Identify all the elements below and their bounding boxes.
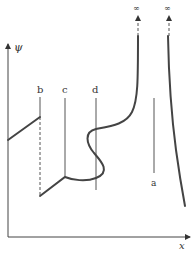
infinity-markers: ∞ ∞ (133, 4, 171, 36)
label-d: d (92, 84, 99, 95)
label-b: b (37, 84, 43, 95)
curve-left-segment (8, 117, 40, 140)
label-a: a (151, 178, 157, 188)
reference-lines: b c d a (37, 84, 157, 196)
potential-diagram: ψ x b c d a ∞ ∞ (0, 0, 194, 253)
curve-s-segment (40, 36, 138, 196)
x-axis-label: x (179, 240, 185, 251)
label-c: c (62, 84, 68, 95)
infinity-label-right: ∞ (164, 4, 171, 13)
infinity-label-left: ∞ (133, 4, 140, 13)
curve-right-segment (168, 36, 185, 206)
y-axis-label: ψ (14, 41, 23, 54)
axes: ψ x (8, 41, 190, 251)
